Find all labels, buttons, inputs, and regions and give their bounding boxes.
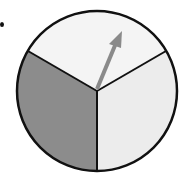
spinner-diagram — [0, 0, 182, 176]
